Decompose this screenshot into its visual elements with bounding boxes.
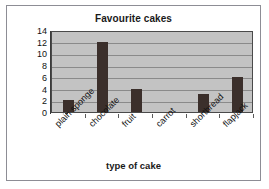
bar xyxy=(131,89,142,112)
x-axis-title: type of cake xyxy=(7,160,260,171)
gridline xyxy=(52,55,252,56)
y-axis-tick-label: 14 xyxy=(27,27,47,36)
x-axis-tick-mark xyxy=(118,114,119,118)
y-axis-tick-labels: 02468101214 xyxy=(25,31,47,113)
y-axis-tick-label: 6 xyxy=(27,74,47,83)
x-axis-tick-mark xyxy=(253,114,254,118)
gridline xyxy=(52,67,252,68)
y-axis-tick-label: 12 xyxy=(27,39,47,48)
chart-title: Favourite cakes xyxy=(7,13,260,24)
y-axis-tick-label: 2 xyxy=(27,97,47,106)
y-axis-tick-label: 8 xyxy=(27,62,47,71)
gridline xyxy=(52,43,252,44)
y-axis-tick-label: 10 xyxy=(27,50,47,59)
y-axis-tick-label: 4 xyxy=(27,86,47,95)
x-axis-tick-mark xyxy=(186,114,187,118)
x-axis-tick-mark xyxy=(85,114,86,118)
x-axis-tick-mark xyxy=(219,114,220,118)
y-axis-tick-label: 0 xyxy=(27,109,47,118)
chart-container: Favourite cakes 02468101214 type of cake… xyxy=(6,5,261,181)
gridline xyxy=(52,78,252,79)
x-axis-category-label: fruit xyxy=(121,112,138,129)
x-axis-tick-mark xyxy=(152,114,153,118)
